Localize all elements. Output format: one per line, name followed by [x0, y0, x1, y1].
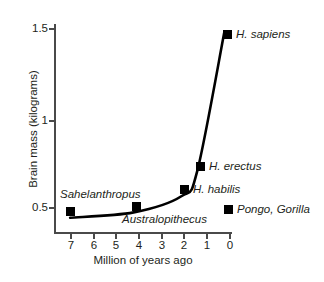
data-point-label-h-habilis: H. habilis: [193, 183, 240, 195]
data-point-label-australopithecus: Australopithecus: [122, 213, 207, 225]
data-point-label-h-sapiens: H. sapiens: [236, 28, 290, 40]
plot-area: Sahelanthropus Australopithecus H. habil…: [0, 0, 324, 282]
trend-curve: [0, 0, 324, 282]
data-point-marker: [132, 202, 141, 211]
data-point-marker: [196, 162, 205, 171]
legend-marker-pongo-gorilla: [224, 205, 233, 214]
data-point-marker: [223, 30, 232, 39]
data-point-marker: [180, 185, 189, 194]
brain-mass-chart: Brain mass (kilograms) Million of years …: [0, 0, 324, 282]
legend-label-pongo-gorilla: Pongo, Gorilla: [237, 203, 310, 215]
data-point-marker: [66, 207, 75, 216]
data-point-label-h-erectus: H. erectus: [209, 160, 261, 172]
data-point-label-sahelanthropus: Sahelanthropus: [60, 188, 141, 200]
